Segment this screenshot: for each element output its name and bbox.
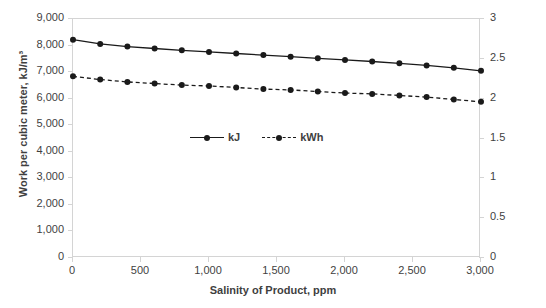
x-axis-tick-label: 500	[110, 264, 170, 276]
data-point-marker	[97, 41, 103, 47]
y-axis-right-tick-label: 2	[490, 91, 530, 103]
data-point-marker	[315, 89, 321, 95]
data-point-marker	[152, 81, 158, 87]
data-point-marker	[70, 37, 76, 43]
data-point-marker	[396, 60, 402, 66]
data-point-marker	[260, 86, 266, 92]
y-axis-left-tick-label: 9,000	[8, 11, 64, 23]
x-axis-title: Salinity of Product, ppm	[0, 284, 546, 296]
data-point-marker	[179, 47, 185, 53]
data-point-marker	[396, 92, 402, 98]
legend-entry-kj: kJ	[190, 132, 240, 143]
x-axis-tick-label: 3,000	[450, 264, 510, 276]
data-point-marker	[288, 87, 294, 93]
y-axis-left-tick-label: 1,000	[8, 223, 64, 235]
data-point-marker	[451, 96, 457, 102]
data-point-marker	[451, 65, 457, 71]
data-point-marker	[288, 54, 294, 60]
data-point-marker	[152, 45, 158, 51]
data-point-marker	[315, 55, 321, 61]
data-point-marker	[342, 57, 348, 63]
data-point-marker	[206, 49, 212, 55]
x-axis-tick-label: 0	[42, 264, 102, 276]
data-point-marker	[233, 85, 239, 91]
y-axis-right-tick-label: 3	[490, 11, 530, 23]
legend-entry-kwh: kWh	[262, 132, 323, 143]
data-point-marker	[233, 51, 239, 57]
x-axis-tick-label: 1,000	[178, 264, 238, 276]
legend-line-dashed-icon	[262, 133, 296, 142]
y-axis-right-tick-label: 2.5	[490, 51, 530, 63]
chart-container: 01,0002,0003,0004,0005,0006,0007,0008,00…	[0, 0, 546, 308]
y-axis-left-tick-label: 0	[8, 250, 64, 262]
data-point-marker	[124, 44, 130, 50]
y-axis-right-tick-label: 0	[490, 250, 530, 262]
chart-legend: kJ kWh	[190, 132, 323, 143]
data-point-marker	[260, 52, 266, 58]
legend-line-solid-icon	[190, 133, 224, 142]
series-kwh	[70, 73, 484, 104]
y-axis-right-tick-label: 1	[490, 170, 530, 182]
data-point-marker	[70, 73, 76, 79]
legend-label-kj: kJ	[228, 132, 240, 143]
data-point-marker	[342, 90, 348, 96]
data-point-marker	[97, 77, 103, 83]
data-point-marker	[369, 58, 375, 64]
series-line-kwh	[73, 76, 481, 101]
series-line-kj	[73, 40, 481, 71]
data-point-marker	[206, 83, 212, 89]
data-point-marker	[369, 91, 375, 97]
data-point-marker	[424, 62, 430, 68]
legend-label-kwh: kWh	[300, 132, 323, 143]
x-axis-tick-label: 2,000	[314, 264, 374, 276]
data-point-marker	[124, 79, 130, 85]
data-point-marker	[179, 82, 185, 88]
data-point-marker	[478, 99, 484, 105]
series-kj	[70, 37, 484, 74]
x-axis-tick-label: 1,500	[246, 264, 306, 276]
y-axis-right-tick-label: 0.5	[490, 210, 530, 222]
data-point-marker	[424, 94, 430, 100]
data-point-marker	[478, 68, 484, 74]
y-axis-right-tick-label: 1.5	[490, 131, 530, 143]
x-axis-tick-label: 2,500	[382, 264, 442, 276]
y-axis-left-title: Work per cubic meter, kJ/m³	[17, 39, 29, 209]
